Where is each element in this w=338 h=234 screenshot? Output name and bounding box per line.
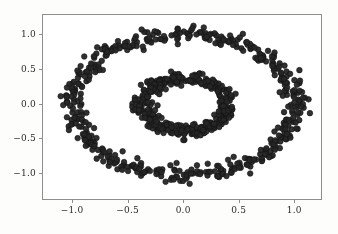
y-tick-mark [39,173,42,174]
scatter-plot-area [43,15,323,201]
y-tick-label: 0.5 [21,64,36,74]
x-tick-label: −0.5 [116,205,139,215]
y-tick-mark [39,69,42,70]
x-tick-mark [128,200,129,203]
y-tick-label: −1.0 [13,168,36,178]
y-tick-label: 1.0 [21,29,36,39]
x-tick-label: 0.5 [231,205,246,215]
x-tick-label: 1.0 [287,205,302,215]
x-tick-mark [183,200,184,203]
figure-canvas: −1.0−0.50.00.51.0 −1.0−0.50.00.51.0 [0,0,338,234]
y-tick-mark [39,34,42,35]
y-tick-mark [39,104,42,105]
x-tick-label: −1.0 [61,205,84,215]
y-tick-label: −0.5 [13,133,36,143]
x-tick-label: 0.0 [176,205,191,215]
x-tick-mark [72,200,73,203]
y-tick-label: 0.0 [21,99,36,109]
plot-axes [42,14,322,200]
x-tick-mark [239,200,240,203]
y-tick-mark [39,138,42,139]
x-tick-mark [294,200,295,203]
